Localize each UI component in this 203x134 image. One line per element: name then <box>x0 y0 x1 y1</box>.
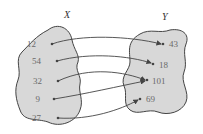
set-x-label: X <box>63 9 71 20</box>
x-element: 32 <box>33 76 42 86</box>
set-y-label: Y <box>162 11 169 22</box>
y-element: 101 <box>152 76 166 86</box>
x-element: 9 <box>36 94 41 104</box>
x-element: 27 <box>32 113 42 123</box>
y-element: 69 <box>146 94 156 104</box>
set-x-region <box>16 26 82 124</box>
x-element: 12 <box>27 39 36 49</box>
y-element: 18 <box>159 60 169 70</box>
mapping-diagram: X Y 12 54 32 9 27 43 18 101 69 <box>0 0 203 134</box>
y-element: 43 <box>169 39 179 49</box>
x-element: 54 <box>32 56 42 66</box>
